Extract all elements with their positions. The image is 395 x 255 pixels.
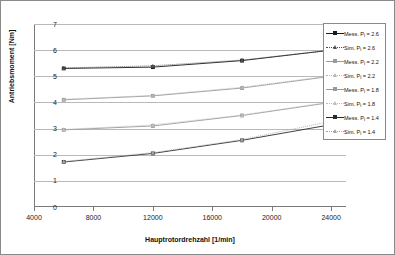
x-tick-label: 20000	[249, 214, 295, 221]
legend-marker-icon	[326, 113, 344, 123]
legend-label: Mess. Pi = 1.4	[344, 115, 379, 122]
x-tick	[212, 207, 213, 211]
series-1	[62, 48, 334, 70]
legend-item[interactable]: Mess. Pi = 1.8	[324, 83, 385, 97]
x-tick	[331, 207, 332, 211]
x-tick	[153, 207, 154, 211]
legend-label: Sim. Pi = 1.4	[344, 129, 375, 136]
legend-label: Mess. Pi = 1.8	[344, 87, 379, 94]
series-line	[64, 102, 331, 129]
x-tick-label: 16000	[189, 214, 235, 221]
x-tick	[34, 207, 35, 211]
x-tick	[272, 207, 273, 211]
x-tick-label: 4000	[11, 214, 57, 221]
legend-item[interactable]: Sim. Pi = 1.8	[324, 97, 385, 111]
legend-item[interactable]: Mess. Pi = 1.4	[324, 111, 385, 125]
legend-marker-icon	[326, 57, 344, 67]
x-axis-title: Hauptrotordrehzahl [1/min]	[34, 236, 346, 243]
series-line	[64, 50, 331, 68]
legend-marker-icon	[326, 43, 344, 53]
chart-figure: 01234567 4000800012000160002000024000 An…	[0, 0, 395, 255]
legend-item[interactable]: Mess. Pi = 2.6	[324, 27, 385, 41]
legend-label: Sim. Pi = 1.8	[344, 101, 375, 108]
legend-label: Sim. Pi = 2.2	[344, 73, 375, 80]
legend-marker-icon	[326, 127, 344, 137]
legend-marker-icon	[326, 29, 344, 39]
x-tick-label: 12000	[130, 214, 176, 221]
legend-marker-icon	[326, 71, 344, 81]
legend-item[interactable]: Sim. Pi = 1.4	[324, 125, 385, 139]
series-line	[64, 102, 331, 129]
series-7	[62, 119, 334, 163]
legend-label: Sim. Pi = 2.6	[344, 45, 375, 52]
legend-item[interactable]: Mess. Pi = 2.2	[324, 55, 385, 69]
x-tick-label: 8000	[70, 214, 116, 221]
legend-marker-icon	[326, 99, 344, 109]
series-line	[64, 50, 331, 68]
legend-label: Mess. Pi = 2.2	[344, 59, 379, 66]
series-5	[62, 100, 334, 132]
x-tick-label: 24000	[308, 214, 354, 221]
series-3	[62, 74, 334, 102]
y-axis-title: Antriebsmoment [Nm]	[8, 8, 15, 126]
legend-item[interactable]: Sim. Pi = 2.6	[324, 41, 385, 55]
legend-item[interactable]: Sim. Pi = 2.2	[324, 69, 385, 83]
x-tick	[93, 207, 94, 211]
series-line	[64, 76, 331, 100]
series-line	[64, 125, 331, 162]
chart-legend: Mess. Pi = 2.6Sim. Pi = 2.6Mess. Pi = 2.…	[323, 23, 386, 140]
series-line	[64, 76, 331, 100]
legend-marker-icon	[326, 85, 344, 95]
series-layer	[34, 24, 346, 207]
legend-label: Mess. Pi = 2.6	[344, 31, 379, 38]
